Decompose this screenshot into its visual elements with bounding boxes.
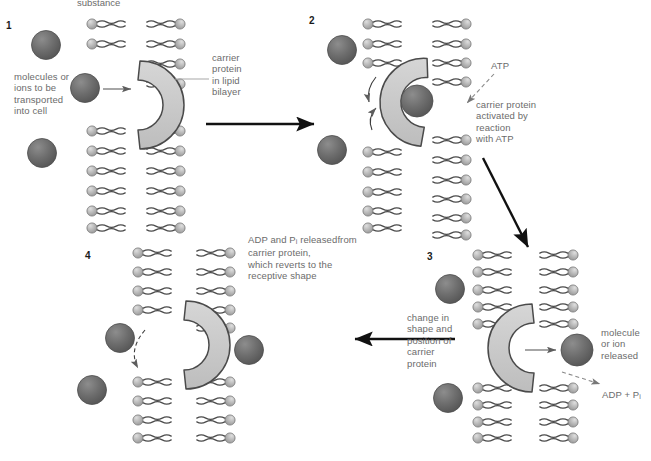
label-molecule-released: molecule or ion released bbox=[601, 327, 651, 361]
figure-canvas: substance 1 2 3 4 molecules or ions to b… bbox=[0, 0, 651, 461]
panel-2-molecule-captured bbox=[401, 85, 433, 117]
panel-3-molecule-b bbox=[434, 384, 463, 413]
label-adp-plus-pi: ADP + Pi bbox=[602, 389, 641, 402]
panel-2 bbox=[318, 19, 495, 240]
label-change-in-shape: change in shape and position of carrier … bbox=[407, 312, 467, 369]
panel-1-carrier-protein bbox=[138, 61, 184, 149]
arrow-panel2-to-panel3 bbox=[483, 158, 528, 247]
panel-2-shape-arrow-lower bbox=[370, 108, 376, 130]
panel-number-4: 4 bbox=[85, 250, 91, 261]
label-adp-pi-released-rest1: released bbox=[297, 234, 337, 245]
panel-3-molecule-released bbox=[561, 334, 593, 366]
label-adp-plus-pi-main: ADP + P bbox=[602, 389, 639, 400]
panel-1 bbox=[28, 19, 210, 233]
label-adp-plus-pi-subscript: i bbox=[639, 393, 641, 400]
panel-1-molecule-b bbox=[28, 139, 57, 168]
label-adp-pi-released: ADP and Pi releasedfrom carrier protein,… bbox=[248, 234, 360, 282]
panel-2-molecule-b bbox=[318, 136, 347, 165]
label-atp: ATP bbox=[491, 60, 509, 71]
panel-number-3: 3 bbox=[427, 251, 433, 262]
panel-4-revert-arrow bbox=[134, 330, 145, 368]
panel-4-carrier-protein bbox=[184, 301, 230, 389]
panel-2-molecule-a bbox=[328, 36, 357, 65]
panel-4-molecule-b bbox=[78, 376, 107, 405]
panel-1-molecule-a bbox=[32, 31, 61, 60]
label-carrier-activated: carrier protein activated by reaction wi… bbox=[476, 99, 572, 145]
panel-3-molecule-a bbox=[436, 275, 465, 304]
panel-4-molecule-a bbox=[106, 324, 135, 353]
panel-2-shape-arrow-upper bbox=[368, 77, 376, 102]
label-carrier-protein-bilayer: carrier protein in lipid bilayer bbox=[212, 52, 272, 98]
panel-3-carrier-protein bbox=[488, 304, 534, 392]
label-adp-pi-released-main: ADP and P bbox=[248, 234, 296, 245]
panel-3-adp-dashed-arrow bbox=[562, 372, 600, 384]
label-molecules-to-transport: molecules or ions to be transported into… bbox=[14, 71, 80, 117]
panel-4-molecule-c bbox=[235, 336, 264, 365]
panel-4 bbox=[78, 248, 264, 443]
panel-number-2: 2 bbox=[309, 15, 315, 26]
clipped-heading: substance bbox=[77, 0, 247, 8]
diagram-svg bbox=[0, 0, 651, 461]
panel-number-1: 1 bbox=[6, 20, 12, 31]
